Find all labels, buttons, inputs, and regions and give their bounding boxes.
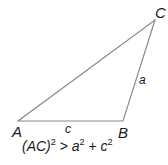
eq-lhs: (AC) bbox=[22, 138, 51, 154]
triangle-abc bbox=[18, 20, 155, 121]
vertex-label-b: B bbox=[118, 125, 128, 140]
eq-t2-exp: 2 bbox=[108, 137, 113, 147]
vertex-label-a: A bbox=[12, 124, 22, 139]
inequality-caption: (AC)2 > a2 + c2 bbox=[22, 138, 113, 154]
vertex-label-c: C bbox=[155, 5, 166, 20]
eq-t2: c bbox=[101, 138, 108, 154]
eq-plus: + bbox=[88, 138, 96, 154]
eq-t1: a bbox=[72, 138, 80, 154]
side-label-a: a bbox=[139, 74, 146, 86]
eq-t1-exp: 2 bbox=[80, 137, 85, 147]
side-label-c: c bbox=[65, 123, 71, 135]
eq-op: > bbox=[60, 138, 68, 154]
eq-lhs-exp: 2 bbox=[51, 137, 56, 147]
